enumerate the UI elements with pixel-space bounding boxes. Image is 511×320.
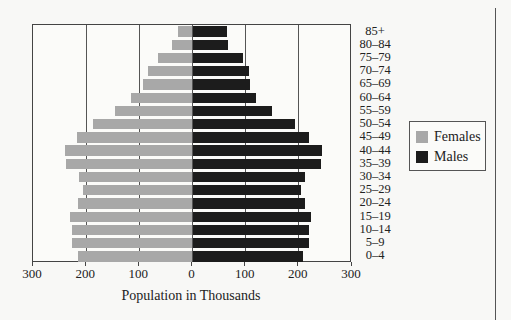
age-label: 50–54 [355,117,395,130]
age-label: 55–59 [355,104,395,117]
female-bar [72,238,192,248]
age-label: 75–79 [355,51,395,64]
male-bar [193,132,310,142]
x-tick-label: 300 [12,266,52,282]
x-tick-label: 100 [225,266,265,282]
male-bar [193,185,301,195]
female-bar [172,40,193,50]
male-bar [193,40,228,50]
age-label: 60–64 [355,91,395,104]
legend-item-females: Females [416,129,481,145]
legend: Females Males [409,121,486,171]
male-bar [193,106,273,116]
female-bar [158,53,193,63]
legend-swatch-females [416,131,428,143]
male-bar [193,93,257,103]
legend-label-females: Females [434,129,481,145]
legend-swatch-males [416,151,428,163]
female-bar [65,145,193,155]
female-bar [148,66,193,76]
male-bar [193,145,322,155]
male-bar [193,79,251,89]
x-tick-label: 0 [172,266,212,282]
female-bar [70,212,192,222]
female-bar [178,26,193,36]
x-tick-label: 200 [65,266,105,282]
male-bar [193,251,303,261]
age-label: 70–74 [355,64,395,77]
age-label: 5–9 [355,236,395,249]
page-margin-rule [495,8,496,320]
age-label: 45–49 [355,130,395,143]
male-bar [193,53,244,63]
age-label: 10–14 [355,223,395,236]
male-bar [193,26,228,36]
female-bar [77,132,192,142]
legend-item-males: Males [416,149,468,165]
female-bar [115,106,192,116]
age-label: 20–24 [355,196,395,209]
x-tick-label: 200 [278,266,318,282]
female-bar [79,172,192,182]
male-bar [193,198,305,208]
age-label: 30–34 [355,170,395,183]
female-bar [143,79,193,89]
female-bar [78,198,193,208]
plot-area [32,24,351,262]
x-tick-label: 300 [331,266,371,282]
male-bar [193,66,249,76]
female-bar [131,93,192,103]
male-bar [193,119,295,129]
female-bar [93,119,192,129]
age-label: 80–84 [355,38,395,51]
x-tick-label: 100 [118,266,158,282]
legend-label-males: Males [434,149,468,165]
female-bar [83,185,193,195]
male-bar [193,212,311,222]
age-label: 65–69 [355,77,395,90]
age-label: 15–19 [355,210,395,223]
age-label: 40–44 [355,144,395,157]
female-bar [78,251,193,261]
female-bar [72,225,192,235]
age-label: 25–29 [355,183,395,196]
male-bar [193,172,305,182]
male-bar [193,238,309,248]
male-bar [193,159,322,169]
age-label: 35–39 [355,157,395,170]
male-bar [193,225,309,235]
female-bar [66,159,193,169]
age-label: 85+ [355,25,395,38]
x-axis-label: Population in Thousands [100,288,282,304]
age-label: 0–4 [355,249,395,262]
